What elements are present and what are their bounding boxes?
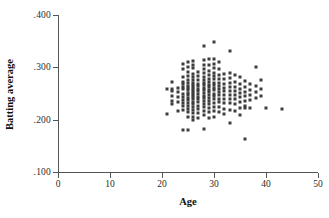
y-tick-mark: [53, 120, 58, 121]
data-point: [254, 65, 257, 68]
data-point: [239, 76, 242, 79]
data-point: [239, 96, 242, 99]
data-point: [223, 107, 226, 110]
data-point: [218, 73, 221, 76]
data-point: [233, 73, 236, 76]
data-point: [223, 97, 226, 100]
data-point: [171, 94, 174, 97]
data-point: [218, 97, 221, 100]
x-tick-mark: [266, 173, 267, 178]
data-point: [192, 67, 195, 70]
data-point: [249, 88, 252, 91]
x-tick-mark: [58, 173, 59, 178]
data-point: [254, 91, 257, 94]
data-point: [202, 45, 205, 48]
data-point: [239, 91, 242, 94]
data-point: [218, 101, 221, 104]
data-point: [239, 83, 242, 86]
data-point: [239, 87, 242, 90]
data-point: [197, 75, 200, 78]
scatter-plot-figure: Batting average .100.200.300.400 0102030…: [0, 0, 329, 218]
data-point: [244, 95, 247, 98]
data-point: [213, 115, 216, 118]
data-point: [213, 67, 216, 70]
y-tick-mark: [53, 15, 58, 16]
data-point: [265, 106, 268, 109]
data-point: [181, 108, 184, 111]
data-point: [207, 57, 210, 60]
data-point: [249, 106, 252, 109]
data-point: [176, 86, 179, 89]
data-point: [259, 78, 262, 81]
data-point: [187, 66, 190, 69]
data-point: [207, 117, 210, 120]
data-point: [187, 71, 190, 74]
data-point: [228, 97, 231, 100]
data-point: [187, 129, 190, 132]
data-point: [233, 94, 236, 97]
plot-area: .100.200.300.400 01020304050: [58, 15, 318, 173]
data-point: [244, 107, 247, 110]
data-point: [187, 107, 190, 110]
data-point: [207, 74, 210, 77]
y-tick-label: .200: [34, 115, 51, 125]
data-point: [202, 128, 205, 131]
data-point: [280, 108, 283, 111]
y-axis-title: Batting average: [2, 15, 16, 173]
data-point: [228, 108, 231, 111]
x-tick-mark: [162, 173, 163, 178]
data-point: [192, 63, 195, 66]
x-tick-label: 40: [261, 179, 271, 189]
data-point: [239, 100, 242, 103]
data-point: [223, 72, 226, 75]
data-point: [213, 41, 216, 44]
data-point: [197, 107, 200, 110]
y-tick-label: .300: [34, 62, 51, 72]
data-point: [244, 90, 247, 93]
data-point: [249, 82, 252, 85]
data-point: [202, 109, 205, 112]
x-tick-mark: [318, 173, 319, 178]
x-tick-mark: [110, 173, 111, 178]
x-tick-label: 50: [313, 179, 323, 189]
data-point: [254, 84, 257, 87]
x-tick-mark: [214, 173, 215, 178]
data-point: [166, 87, 169, 90]
data-point: [233, 103, 236, 106]
data-point: [176, 90, 179, 93]
data-point: [202, 72, 205, 75]
data-point: [213, 63, 216, 66]
data-point: [197, 111, 200, 114]
data-point: [202, 106, 205, 109]
data-point: [181, 88, 184, 91]
data-point: [213, 58, 216, 61]
data-point: [223, 94, 226, 97]
data-point: [197, 78, 200, 81]
data-point: [228, 93, 231, 96]
y-tick-label: .400: [34, 10, 51, 20]
data-point: [171, 103, 174, 106]
data-point: [244, 86, 247, 89]
data-point: [202, 59, 205, 62]
x-tick-label: 0: [56, 179, 61, 189]
data-point: [223, 112, 226, 115]
x-tick-label: 20: [157, 179, 167, 189]
data-point: [228, 77, 231, 80]
data-point: [218, 61, 221, 64]
data-point: [218, 106, 221, 109]
data-point: [171, 90, 174, 93]
data-point: [192, 115, 195, 118]
data-point: [239, 106, 242, 109]
data-point: [228, 122, 231, 125]
data-point: [166, 113, 169, 116]
data-point: [181, 76, 184, 79]
data-point: [233, 85, 236, 88]
data-point: [228, 71, 231, 74]
data-point: [181, 92, 184, 95]
data-point: [249, 93, 252, 96]
data-point: [218, 68, 221, 71]
data-point: [202, 67, 205, 70]
data-point: [181, 63, 184, 66]
x-tick-label: 30: [209, 179, 219, 189]
data-point: [228, 89, 231, 92]
